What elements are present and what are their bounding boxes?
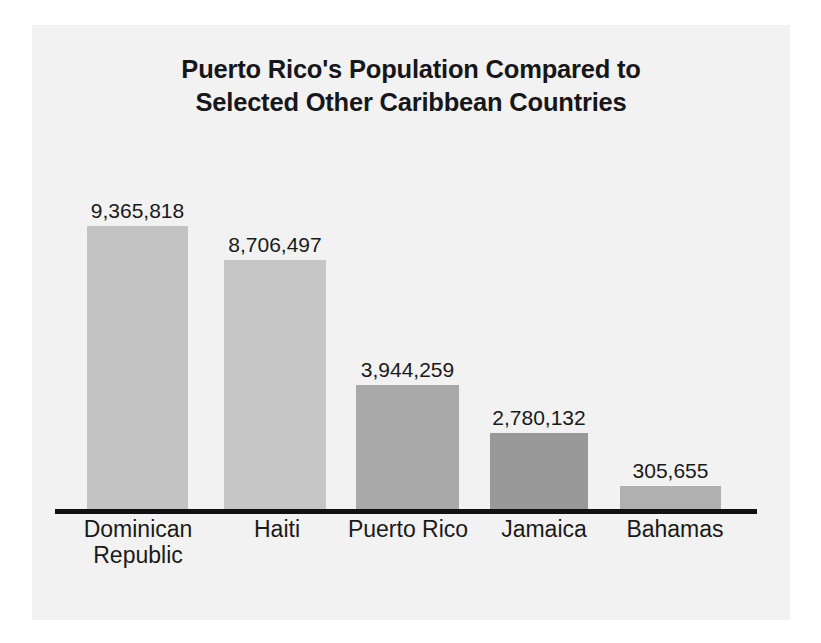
bar-value-label: 2,780,132 xyxy=(492,407,585,428)
chart-figure: Puerto Rico's Population Compared to Sel… xyxy=(32,25,790,620)
bar-rect xyxy=(620,486,721,509)
category-label-dominican-republic: Dominican Republic xyxy=(54,517,222,569)
bar-value-label: 9,365,818 xyxy=(91,200,184,221)
category-label-bahamas: Bahamas xyxy=(610,517,740,543)
bar-rect xyxy=(224,260,326,509)
bar-value-label: 305,655 xyxy=(633,460,709,481)
category-label-haiti: Haiti xyxy=(222,517,332,543)
plot-area: 9,365,8188,706,4973,944,2592,780,132305,… xyxy=(32,25,790,620)
category-label-puerto-rico: Puerto Rico xyxy=(332,517,484,543)
bar-value-label: 3,944,259 xyxy=(361,359,454,380)
category-label-jamaica: Jamaica xyxy=(484,517,604,543)
bar-puerto-rico: 3,944,259 xyxy=(356,385,459,509)
bar-haiti: 8,706,497 xyxy=(224,260,326,509)
x-axis-line xyxy=(55,509,757,514)
bar-jamaica: 2,780,132 xyxy=(490,433,588,509)
bar-dominican-republic: 9,365,818 xyxy=(87,226,188,509)
bar-value-label: 8,706,497 xyxy=(228,234,321,255)
bar-bahamas: 305,655 xyxy=(620,486,721,509)
bar-rect xyxy=(87,226,188,509)
bar-rect xyxy=(490,433,588,509)
bar-rect xyxy=(356,385,459,509)
